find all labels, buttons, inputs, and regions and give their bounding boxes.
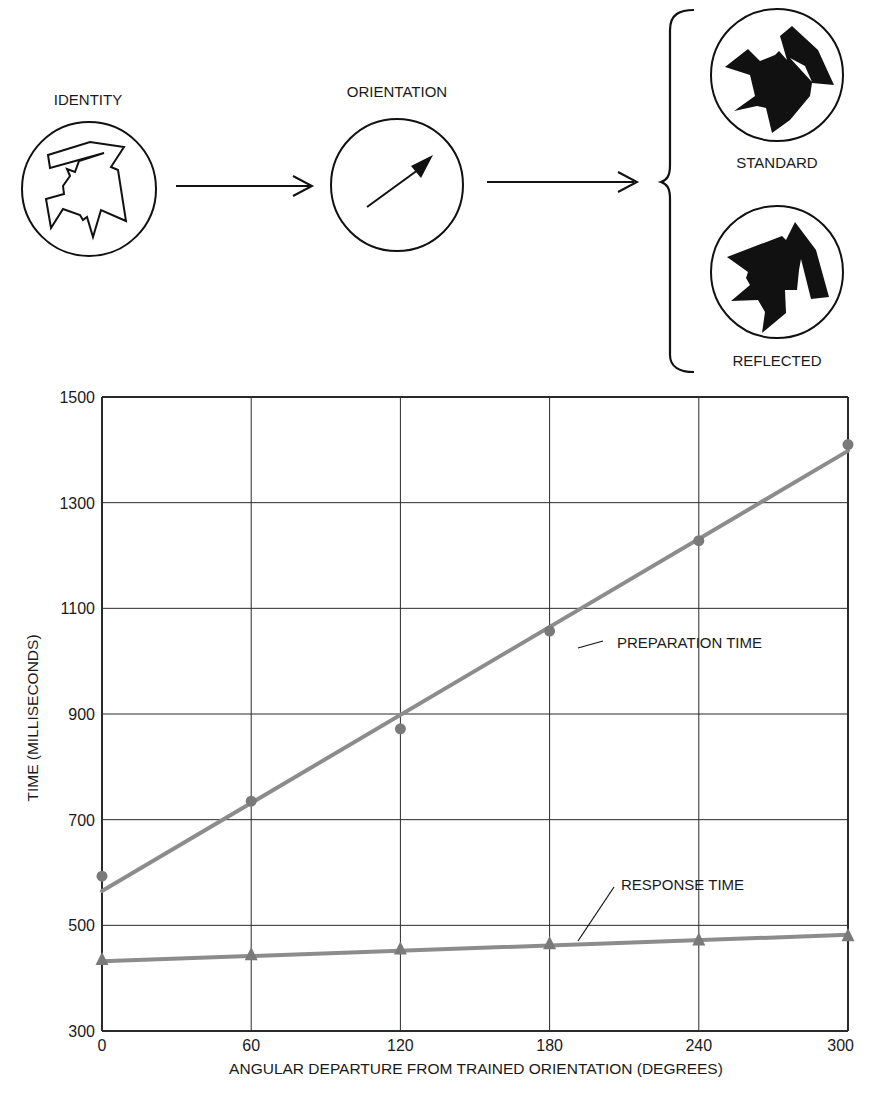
identity-label: IDENTITY	[54, 91, 122, 108]
preparation-time-series	[97, 439, 854, 891]
response-time-label: RESPONSE TIME	[621, 876, 744, 893]
orientation-label: ORIENTATION	[347, 83, 447, 100]
preparation-time-fit-line	[102, 451, 848, 891]
y-tick-label: 1300	[59, 495, 95, 512]
response-time-point	[394, 941, 407, 954]
preparation-time-point	[97, 871, 108, 882]
response-time-series	[96, 928, 855, 965]
y-tick-label: 1500	[59, 389, 95, 406]
grid	[102, 397, 848, 1031]
preparation-time-point	[544, 626, 555, 637]
y-axis-title: TIME (MILLISECONDS)	[24, 634, 41, 801]
annotations: PREPARATION TIME RESPONSE TIME	[578, 634, 762, 941]
preparation-time-point	[246, 796, 257, 807]
response-time-point	[96, 952, 109, 965]
y-tick-labels: 300500700900110013001500	[59, 389, 95, 1040]
orientation-arrow-icon	[411, 155, 433, 178]
orientation-arrow-shaft	[367, 167, 422, 207]
y-tick-label: 700	[68, 812, 95, 829]
preparation-time-point	[395, 723, 406, 734]
x-tick-label: 0	[98, 1037, 107, 1054]
x-tick-label: 300	[827, 1037, 854, 1054]
x-tick-label: 120	[387, 1037, 414, 1054]
reflected-shape-icon	[727, 222, 829, 333]
standard-label: STANDARD	[736, 154, 818, 171]
preparation-time-point	[693, 535, 704, 546]
process-diagram: IDENTITY ORIENTATION STANDARD REFLECTED	[22, 9, 843, 372]
x-tick-label: 180	[536, 1037, 563, 1054]
response-time-leader-line	[578, 887, 614, 941]
y-tick-label: 500	[68, 917, 95, 934]
x-tick-label: 60	[242, 1037, 260, 1054]
response-time-point	[543, 936, 556, 949]
y-tick-label: 900	[68, 706, 95, 723]
figure: IDENTITY ORIENTATION STANDARD REFLECTED …	[0, 0, 872, 1102]
chart: 300500700900110013001500 060120180240300…	[24, 389, 855, 1077]
preparation-time-point	[843, 439, 854, 450]
response-time-point	[245, 947, 258, 960]
preparation-time-label: PREPARATION TIME	[617, 634, 762, 651]
x-tick-label: 240	[685, 1037, 712, 1054]
identity-outline-shape-icon	[46, 142, 126, 237]
brace-icon	[661, 10, 694, 372]
x-axis-title: ANGULAR DEPARTURE FROM TRAINED ORIENTATI…	[229, 1060, 723, 1077]
x-tick-labels: 060120180240300	[98, 1037, 855, 1054]
response-time-fit-line	[102, 935, 848, 961]
standard-shape-icon	[725, 26, 834, 133]
y-tick-label: 300	[68, 1023, 95, 1040]
y-tick-label: 1100	[61, 600, 96, 617]
reflected-label: REFLECTED	[732, 352, 821, 369]
preparation-time-leader-line	[578, 641, 603, 648]
